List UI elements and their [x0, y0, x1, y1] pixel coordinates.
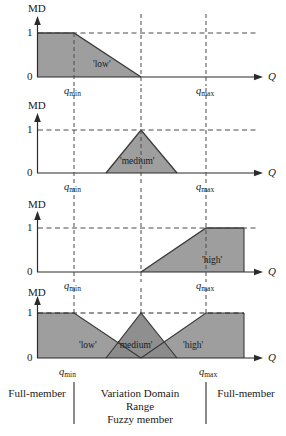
qmax-subscript: max	[201, 89, 214, 98]
qmin-subscript: min	[69, 185, 81, 194]
panel-combined-term-low: 'low'	[79, 340, 97, 350]
qmin-subscript: min	[69, 284, 81, 293]
panel-high-qmin-label: qmin	[64, 280, 81, 291]
panel-low-term-label: 'low'	[93, 59, 111, 69]
y-axis-arrow	[34, 16, 41, 25]
x-axis-arrow	[254, 74, 263, 81]
combined-medium-region	[106, 313, 177, 358]
panel-combined-qmin-label: qmin	[59, 366, 76, 377]
panel-low	[34, 14, 263, 86]
panel-combined-y-axis-label: MD	[28, 286, 46, 298]
panel-low-tick-zero: 0	[27, 70, 33, 82]
panel-low-qmax-label: qmax	[196, 85, 214, 96]
panel-high-y-axis-label: MD	[28, 198, 46, 210]
panel-low-y-axis-label: MD	[28, 2, 46, 14]
qmin-subscript: min	[69, 89, 81, 98]
y-axis-arrow	[34, 211, 41, 220]
panel-high-tick-zero: 0	[27, 265, 33, 277]
panel-low-qmin-label: qmin	[64, 85, 81, 96]
panel-medium	[34, 88, 263, 183]
panel-medium-qmin-label: qmin	[64, 181, 81, 192]
panel-high-term-label: 'high'	[202, 255, 222, 265]
panel-combined-term-medium: 'medium'	[118, 340, 153, 350]
qmax-subscript: max	[204, 370, 217, 379]
footer-center-line2: Range	[74, 400, 206, 412]
high-membership-region	[141, 228, 244, 272]
fuzzy-membership-figure	[0, 0, 286, 436]
y-axis-arrow	[34, 113, 41, 122]
panel-combined-qmax-label: qmax	[199, 366, 217, 377]
panel-combined-x-axis-label: Q	[268, 351, 276, 363]
panel-high-qmax-label: qmax	[196, 280, 214, 291]
qmin-subscript: min	[64, 370, 76, 379]
panel-combined-tick-zero: 0	[27, 351, 33, 363]
panel-medium-qmax-label: qmax	[196, 181, 214, 192]
panel-low-x-axis-label: Q	[268, 70, 276, 82]
footer-left-label: Full-member	[0, 387, 74, 399]
x-axis-arrow	[254, 170, 263, 177]
low-membership-region	[38, 33, 141, 77]
x-axis-arrow	[254, 355, 263, 362]
panel-combined-tick-one: 1	[27, 306, 33, 318]
footer-right-label: Full-member	[206, 387, 286, 399]
footer-center-line3: Fuzzy member	[74, 413, 206, 425]
panel-combined-term-high: 'high'	[183, 340, 203, 350]
panel-high-x-axis-label: Q	[268, 265, 276, 277]
panel-high-tick-one: 1	[27, 221, 33, 233]
panel-low-tick-one: 1	[27, 26, 33, 38]
panel-medium-term-label: 'medium'	[120, 156, 155, 166]
qmax-subscript: max	[201, 185, 214, 194]
panel-medium-y-axis-label: MD	[28, 99, 46, 111]
panel-medium-x-axis-label: Q	[268, 166, 276, 178]
panel-medium-tick-zero: 0	[27, 166, 33, 178]
footer-center-line1: Variation Domain	[74, 387, 206, 399]
panel-high	[34, 188, 263, 282]
qmax-subscript: max	[201, 284, 214, 293]
panel-medium-tick-one: 1	[27, 123, 33, 135]
x-axis-arrow	[254, 269, 263, 276]
